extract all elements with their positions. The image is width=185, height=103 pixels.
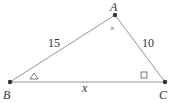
side-ac-label: 10	[142, 36, 154, 50]
triangle-diagram: A B C 15 10 x ×	[0, 0, 185, 103]
vertex-b-point	[8, 80, 12, 84]
side-ab-label: 15	[48, 36, 60, 50]
angle-b-marker-icon	[30, 73, 38, 79]
vertex-b-label: B	[3, 88, 11, 102]
side-bc-label: x	[81, 81, 88, 95]
vertex-c-label: C	[159, 88, 168, 102]
vertex-c-point	[163, 80, 167, 84]
angle-a-marker-icon: ×	[110, 24, 115, 33]
vertex-a-label: A	[109, 0, 118, 14]
side-ab	[10, 15, 115, 82]
side-ac	[115, 15, 165, 82]
angle-c-marker-icon	[141, 72, 147, 78]
